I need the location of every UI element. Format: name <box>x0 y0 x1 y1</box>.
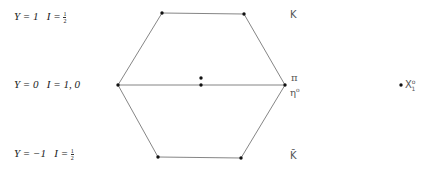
label-x-singlet: Xo1 <box>405 78 415 92</box>
particle-dots <box>116 11 402 159</box>
label-k-bar: K̄ <box>290 150 297 161</box>
label-k: K <box>290 9 297 20</box>
label-pi: π <box>291 72 298 83</box>
label-eta: ηo <box>290 86 300 98</box>
octet-hexagon-diagram <box>0 0 430 173</box>
